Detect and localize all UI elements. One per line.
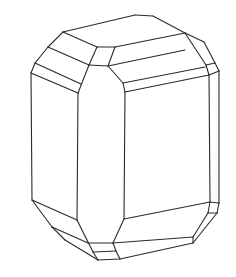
crystal-edge	[113, 219, 124, 243]
crystal-edge	[125, 75, 209, 92]
crystal-drawing	[0, 0, 236, 277]
crystal-edge	[108, 47, 115, 66]
crystal-edge	[116, 251, 120, 259]
crystal-edge	[78, 65, 89, 93]
crystal-edge	[31, 73, 32, 200]
crystal-edge	[31, 73, 78, 93]
crystal-edge	[89, 65, 108, 66]
crystal-edge	[108, 66, 123, 83]
crystal-edge	[93, 251, 116, 252]
crystal-edge	[204, 42, 215, 63]
crystal-edge	[113, 237, 193, 243]
crystal-edge	[48, 32, 63, 47]
crystal-edge	[123, 67, 205, 83]
crystal-edge	[124, 92, 125, 219]
crystal-edge	[123, 83, 125, 92]
crystal-edge	[115, 33, 185, 47]
crystal-edge	[63, 32, 97, 47]
crystal-edge	[209, 71, 219, 75]
crystal-edge	[77, 93, 78, 220]
crystal-edge	[98, 259, 120, 260]
crystal-edge	[206, 65, 209, 75]
crystal-edge	[48, 47, 89, 65]
crystal-edge	[89, 47, 97, 65]
crystal-edge	[108, 50, 185, 66]
crystal-edge	[77, 220, 93, 252]
crystal-edge	[209, 75, 210, 202]
crystal-edge	[217, 203, 219, 213]
crystal-edge	[35, 63, 81, 84]
crystal-edge	[206, 63, 215, 65]
crystal-edge	[135, 15, 153, 16]
crystal-edge	[210, 202, 219, 203]
crystal-edge	[120, 243, 193, 259]
crystal-edge	[52, 227, 88, 243]
crystal-edge	[31, 63, 35, 73]
crystal-edge	[124, 202, 210, 219]
crystal-edge	[35, 47, 48, 63]
crystal-edge	[63, 15, 135, 32]
crystal-edge	[153, 16, 185, 33]
crystal-edge	[215, 63, 219, 71]
crystal-edge	[208, 202, 210, 213]
crystal-diagram: Line drawing of a prismatic crystal with…	[0, 0, 236, 277]
crystal-edge	[52, 227, 65, 240]
crystal-edge	[113, 243, 116, 251]
